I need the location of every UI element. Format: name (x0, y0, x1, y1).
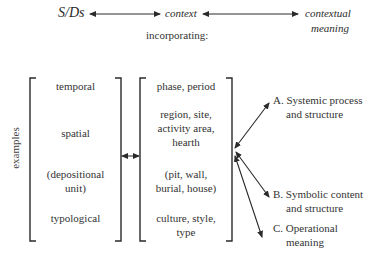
category-label: spatial (32, 126, 119, 140)
outcome-c-line2: meaning (273, 235, 338, 249)
category-label: unit) (32, 181, 119, 195)
outcome-b-line1: B. Symbolic content (273, 187, 363, 201)
outcome-a-line2: and structure (273, 107, 363, 121)
outcome-b-line2: and structure (273, 201, 363, 215)
outcome-c: C. Operational meaning (273, 221, 338, 249)
category-typological: typological (32, 211, 119, 225)
examples-spatial: region, site, activity area, hearth (142, 107, 230, 149)
category-spatial: spatial (32, 126, 119, 140)
category-label: temporal (32, 79, 119, 93)
example-text: culture, style, (142, 211, 230, 225)
contextual-meaning-line1: contextual (305, 8, 351, 19)
category-label: (depositional (32, 167, 119, 181)
context-label: context (165, 8, 197, 19)
examples-depositional-unit: (pit, wall, burial, house) (142, 167, 230, 195)
examples-temporal: phase, period (142, 79, 230, 93)
example-text: region, site, (142, 107, 230, 121)
category-temporal: temporal (32, 79, 119, 93)
example-text: phase, period (142, 79, 230, 93)
source-label: S/Ds (58, 6, 84, 20)
example-text: activity area, (142, 121, 230, 135)
category-label: typological (32, 211, 119, 225)
example-text: (pit, wall, (142, 167, 230, 181)
examples-typological: culture, style, type (142, 211, 230, 239)
outcome-a: A. Systemic process and structure (273, 93, 363, 121)
contextual-meaning-line2: meaning (311, 23, 349, 34)
subtitle-incorporating: incorporating: (146, 30, 208, 41)
examples-side-label: examples (9, 127, 21, 169)
outcome-c-line1: C. Operational (273, 221, 338, 235)
arrow-outcome-a (235, 103, 269, 148)
example-text: type (142, 225, 230, 239)
example-text: hearth (142, 135, 230, 149)
example-text: burial, house) (142, 181, 230, 195)
outcome-a-line1: A. Systemic process (273, 93, 363, 107)
category-depositional-unit: (depositional unit) (32, 167, 119, 195)
outcome-b: B. Symbolic content and structure (273, 187, 363, 215)
